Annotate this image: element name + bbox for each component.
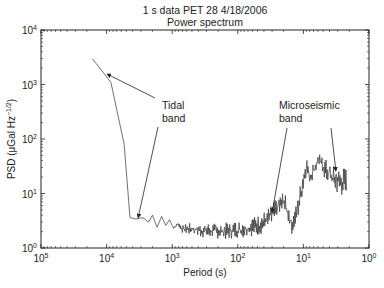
y-tick-label-base: 10 <box>22 80 34 91</box>
x-tick-label: 100 <box>361 252 376 264</box>
y-axis-label-main: PSD (μGal Hz <box>6 116 17 179</box>
annotation-text: band <box>279 112 303 124</box>
annotation-arrow <box>331 128 336 171</box>
x-tick-label: 102 <box>230 252 245 264</box>
x-tick-label-base: 10 <box>165 253 177 264</box>
y-tick-label-base: 10 <box>22 134 34 145</box>
y-tick-label: 103 <box>22 79 37 91</box>
annotation-layer: TidalbandMicroseismicband <box>107 74 339 218</box>
y-tick-label: 104 <box>22 24 37 36</box>
y-tick-label: 102 <box>22 133 37 145</box>
x-tick-label-base: 10 <box>99 253 111 264</box>
chart-subtitle: Power spectrum <box>167 16 243 28</box>
x-tick-label-base: 10 <box>296 253 308 264</box>
x-tick-label: 104 <box>99 252 114 264</box>
y-tick-label-exponent: 3 <box>33 79 37 86</box>
plot-frame <box>41 30 369 248</box>
y-tick-label-exponent: 4 <box>33 24 37 31</box>
x-tick-label-exponent: 1 <box>307 252 311 259</box>
y-axis-label-close: ) <box>6 99 17 102</box>
x-tick-label-base: 10 <box>230 253 242 264</box>
annotation-text: Microseismic <box>279 99 340 111</box>
y-tick-label: 101 <box>22 188 37 200</box>
y-tick-label-exponent: 2 <box>33 133 37 140</box>
x-tick-label-exponent: 0 <box>373 252 377 259</box>
y-axis-label: PSD (μGal Hz−1/2) <box>5 99 17 179</box>
y-tick-label-exponent: 0 <box>33 242 37 249</box>
x-tick-label: 105 <box>33 252 48 264</box>
x-tick-label-exponent: 4 <box>110 252 114 259</box>
x-tick-label-exponent: 5 <box>45 252 49 259</box>
x-tick-label: 101 <box>296 252 311 264</box>
x-tick-label-base: 10 <box>33 253 45 264</box>
annotation-arrow <box>272 128 287 212</box>
x-tick-label-exponent: 3 <box>176 252 180 259</box>
annotation-text: Tidal <box>162 99 184 111</box>
annotation-text: band <box>162 112 186 124</box>
power-spectrum-chart: 1 s data PET 28 4/18/2006 Power spectrum… <box>0 0 384 288</box>
x-tick-label-base: 10 <box>361 253 373 264</box>
annotation-arrow <box>107 74 155 98</box>
chart-title: 1 s data PET 28 4/18/2006 <box>143 4 268 16</box>
y-tick-label-exponent: 1 <box>33 188 37 195</box>
y-tick-label-base: 10 <box>22 25 34 36</box>
annotation: Tidalband <box>107 74 185 218</box>
x-tick-label: 103 <box>165 252 180 264</box>
y-axis-label-exponent: −1/2 <box>5 102 12 116</box>
annotation-arrow <box>138 127 158 218</box>
y-axis: 100101102103104 <box>22 24 369 254</box>
y-tick-label-base: 10 <box>22 243 34 254</box>
y-tick-label-base: 10 <box>22 189 34 200</box>
x-axis-label: Period (s) <box>183 267 226 278</box>
plot-border <box>41 30 369 248</box>
x-tick-label-exponent: 2 <box>241 252 245 259</box>
